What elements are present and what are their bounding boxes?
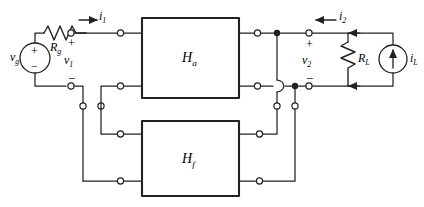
terminal-bot-bus (292, 103, 298, 109)
wire-vg-bottom (35, 73, 66, 86)
wire-vg-top (35, 33, 44, 43)
label-RL: RL (358, 52, 370, 67)
circuit-diagram-canvas: vg + − Rg + v1 − i1 Ha Hf i2 + v2 − RL i… (0, 0, 424, 207)
label-block-Ha: Ha (182, 51, 197, 68)
terminal-Hf-out-top (256, 131, 262, 137)
label-v2: v2 (302, 54, 311, 69)
terminal-Hf-in-bot (117, 178, 123, 184)
label-v1-minus: − (68, 72, 75, 85)
label-iL: iL (410, 52, 418, 67)
label-v2-minus: − (306, 72, 313, 85)
terminal-hop-bus (274, 103, 280, 109)
terminal-Ha-out-top (254, 30, 260, 36)
label-vg-minus: − (31, 60, 38, 72)
schematic-svg (0, 0, 424, 207)
label-i1: i1 (99, 10, 106, 25)
terminal-Ha-in-top (117, 30, 123, 36)
label-block-Hf: Hf (182, 152, 195, 169)
wire-iL-top (348, 33, 393, 45)
resistor-RL-zigzag (341, 42, 355, 86)
terminal-Hf-in-top (117, 131, 123, 137)
label-Rg: Rg (50, 41, 61, 56)
terminal-Ha-in-bot (117, 83, 123, 89)
label-vg: vg (10, 51, 19, 66)
wire-iL-bottom (348, 73, 393, 86)
wire-hop-crossover (277, 80, 284, 92)
terminal-left-bus-mid (80, 103, 86, 109)
label-v1-plus: + (68, 37, 75, 49)
terminal-Ha-out-bot (254, 83, 260, 89)
terminal-Hf-out-bot (256, 178, 262, 184)
wire-Hf-in-top (101, 109, 117, 134)
label-v1: v1 (64, 54, 73, 69)
label-vg-plus: + (31, 45, 38, 57)
wire-to-Hf-out-top (263, 109, 277, 134)
terminal-port2-plus (306, 30, 312, 36)
wire-to-Hf-out-bot (263, 109, 295, 181)
label-v2-plus: + (306, 38, 313, 50)
label-i2: i2 (339, 10, 346, 25)
wire-port1-bottom-bus (74, 86, 83, 181)
